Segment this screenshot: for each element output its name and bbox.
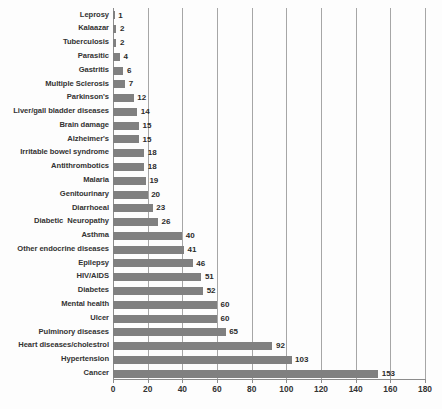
- category-label: Genitourinary: [0, 190, 109, 198]
- category-label: Parkinson's: [0, 93, 109, 101]
- bar: [113, 232, 182, 240]
- bar: [113, 149, 144, 157]
- bar-value-label: 92: [276, 339, 285, 352]
- category-label: Mental health: [0, 300, 109, 308]
- bar: [113, 177, 146, 185]
- bar: [113, 356, 292, 364]
- tick-mark: [113, 380, 114, 383]
- bar: [113, 108, 137, 116]
- value-axis: 020406080100120140160180: [113, 380, 426, 400]
- bar-row: 41: [113, 242, 425, 256]
- bar-value-label: 15: [143, 119, 152, 132]
- category-label: Gastritis: [0, 66, 109, 74]
- category-label: Diabetes: [0, 286, 109, 294]
- category-label: Brain damage: [0, 121, 109, 129]
- bar-value-label: 2: [120, 22, 124, 35]
- bar-row: 46: [113, 256, 425, 270]
- bar-row: 52: [113, 284, 425, 298]
- bar: [113, 191, 148, 199]
- bar: [113, 204, 153, 212]
- bar: [113, 135, 139, 143]
- bar-value-label: 60: [221, 298, 230, 311]
- bar-value-label: 52: [207, 284, 216, 297]
- category-label: Diarrhoeal: [0, 204, 109, 212]
- bar-value-label: 20: [151, 188, 160, 201]
- bar-value-label: 18: [148, 146, 157, 159]
- bar-value-label: 7: [129, 77, 133, 90]
- bar-value-label: 2: [120, 36, 124, 49]
- bar-row: 26: [113, 215, 425, 229]
- bar: [113, 53, 120, 61]
- bar-row: 2: [113, 36, 425, 50]
- bar-value-label: 15: [143, 133, 152, 146]
- bar-row: 15: [113, 118, 425, 132]
- category-label: Tuberculosis: [0, 38, 109, 46]
- bar-row: 2: [113, 22, 425, 36]
- bar: [113, 328, 226, 336]
- bar-value-label: 1: [118, 9, 122, 22]
- category-label: HIV/AIDS: [0, 272, 109, 280]
- bar: [113, 218, 158, 226]
- bar-value-label: 65: [229, 325, 238, 338]
- bar: [113, 315, 217, 323]
- category-label: Ulcer: [0, 314, 109, 322]
- bar-row: 23: [113, 201, 425, 215]
- category-label: Alzheimer's: [0, 135, 109, 143]
- bar-value-label: 14: [141, 105, 150, 118]
- bar-row: 7: [113, 77, 425, 91]
- bar: [113, 80, 125, 88]
- tick-mark: [182, 380, 183, 383]
- bar-row: 14: [113, 104, 425, 118]
- bar-row: 60: [113, 311, 425, 325]
- bar-value-label: 41: [188, 243, 197, 256]
- bar-row: 19: [113, 173, 425, 187]
- category-label: Pulminory diseases: [0, 328, 109, 336]
- bar: [113, 67, 123, 75]
- category-label: Other endocrine diseases: [0, 245, 109, 253]
- bar-value-label: 103: [295, 353, 308, 366]
- bar: [113, 342, 272, 350]
- bar: [113, 259, 193, 267]
- bar-chart: LeprosyKalaazarTuberculosisParasiticGast…: [0, 0, 442, 409]
- category-label: Hypertension: [0, 355, 109, 363]
- bar-row: 20: [113, 187, 425, 201]
- bar-row: 92: [113, 339, 425, 353]
- tick-mark: [217, 380, 218, 383]
- bar-value-label: 26: [162, 215, 171, 228]
- bar-value-label: 12: [137, 91, 146, 104]
- bar-value-label: 4: [123, 50, 127, 63]
- bar: [113, 301, 217, 309]
- tick-mark: [390, 380, 391, 383]
- bar: [113, 287, 203, 295]
- tick-mark: [356, 380, 357, 383]
- tick-mark: [148, 380, 149, 383]
- category-label: Cancer: [0, 369, 109, 377]
- bar-value-label: 51: [205, 270, 214, 283]
- bar: [113, 25, 116, 33]
- category-label: Diabetic Neuropathy: [0, 217, 109, 225]
- bar-row: 1: [113, 8, 425, 22]
- tick-label: 180: [405, 384, 442, 394]
- bar-row: 103: [113, 352, 425, 366]
- category-label: Kalaazar: [0, 24, 109, 32]
- tick-mark: [286, 380, 287, 383]
- category-label: Irritable bowel syndrome: [0, 148, 109, 156]
- bar: [113, 163, 144, 171]
- category-label: Multiple Sclerosis: [0, 80, 109, 88]
- bar-row: 60: [113, 297, 425, 311]
- bar: [113, 11, 115, 19]
- bar: [113, 122, 139, 130]
- bar-row: 51: [113, 270, 425, 284]
- category-label: Heart diseases/cholestrol: [0, 341, 109, 349]
- category-axis: LeprosyKalaazarTuberculosisParasiticGast…: [0, 8, 112, 380]
- bar-row: 12: [113, 91, 425, 105]
- bar: [113, 273, 201, 281]
- bar-value-label: 46: [196, 257, 205, 270]
- bar-value-label: 40: [186, 229, 195, 242]
- bar-row: 15: [113, 132, 425, 146]
- gridline: [425, 8, 426, 380]
- bar-row: 40: [113, 228, 425, 242]
- category-label: Antithrombotics: [0, 162, 109, 170]
- bar: [113, 39, 116, 47]
- category-label: Parasitic: [0, 52, 109, 60]
